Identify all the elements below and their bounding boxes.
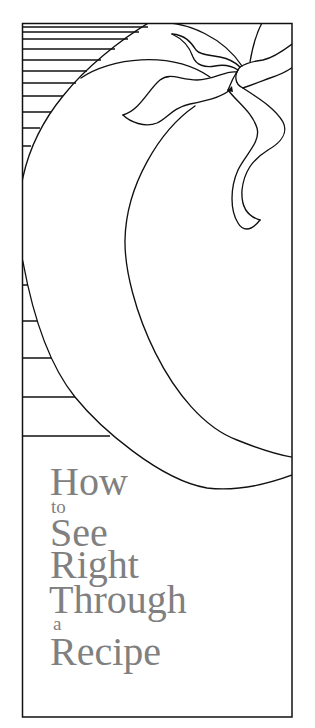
page-title: How to See Right Through a Recipe <box>49 459 187 674</box>
leaf-icon <box>228 88 285 229</box>
leaf-left-top-edge <box>123 72 237 115</box>
cover-illustration: How to See Right Through a Recipe <box>0 0 315 728</box>
tomato-icon <box>17 22 300 489</box>
leaf-right-top-edge <box>240 41 296 67</box>
leaf-right-bottom-edge <box>243 65 296 88</box>
leaf-left-bottom-edge <box>123 90 230 125</box>
leaf-icon <box>240 41 296 88</box>
sepal-line <box>250 21 263 62</box>
stem-knot <box>236 67 243 88</box>
stem-icon <box>227 67 243 92</box>
booklet-cover: How to See Right Through a Recipe <box>0 0 315 728</box>
tomato-highlight-arc <box>125 106 300 458</box>
title-line-recipe: Recipe <box>50 629 161 674</box>
title-line-through: Through <box>49 577 187 622</box>
artwork-group <box>17 21 300 489</box>
stripes-bottom <box>22 285 110 436</box>
leaf-icon <box>123 72 237 125</box>
tomato-top-contour <box>81 60 210 78</box>
